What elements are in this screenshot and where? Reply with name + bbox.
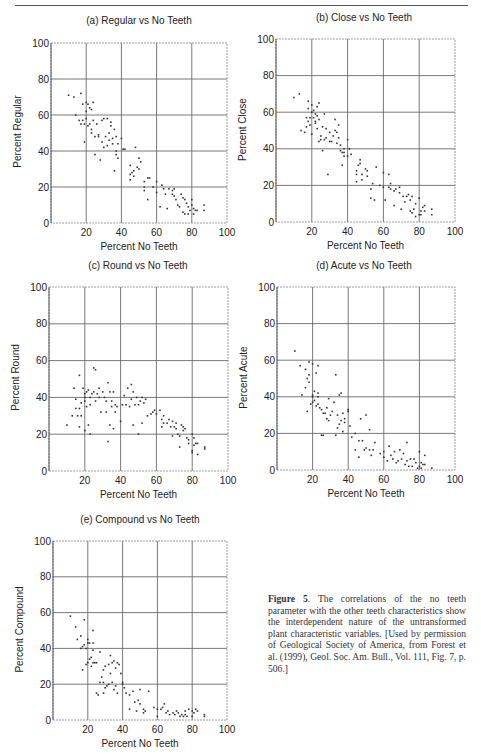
- data-point: [135, 147, 137, 149]
- data-point: [116, 406, 118, 408]
- data-point: [342, 412, 344, 414]
- data-point: [334, 119, 336, 121]
- data-point: [312, 396, 314, 398]
- data-point: [85, 111, 87, 113]
- x-tick-label: 40: [117, 724, 129, 735]
- data-point: [406, 460, 408, 462]
- data-point: [82, 387, 84, 389]
- data-point: [384, 199, 386, 201]
- x-tick-label: 20: [307, 474, 319, 485]
- data-point: [371, 455, 373, 457]
- x-tick-label: 80: [414, 474, 426, 485]
- x-tick-label: 60: [378, 474, 390, 485]
- data-point: [322, 126, 324, 128]
- data-point: [133, 175, 135, 177]
- data-point: [340, 144, 342, 146]
- data-point: [97, 393, 99, 395]
- data-point: [408, 194, 410, 196]
- data-point: [169, 714, 171, 716]
- data-point: [317, 403, 319, 405]
- data-point: [106, 685, 108, 687]
- data-point: [160, 708, 162, 710]
- data-point: [204, 446, 206, 448]
- data-point: [174, 714, 176, 716]
- data-point: [95, 400, 97, 402]
- data-point: [132, 424, 134, 426]
- data-point: [152, 411, 154, 413]
- data-point: [320, 139, 322, 141]
- data-point: [307, 100, 309, 102]
- data-point: [395, 462, 397, 464]
- data-point: [98, 136, 100, 138]
- data-point: [139, 703, 141, 705]
- data-point: [338, 137, 340, 139]
- data-point: [331, 411, 333, 413]
- data-point: [147, 415, 149, 417]
- data-point: [322, 412, 324, 414]
- data-point: [179, 435, 181, 437]
- data-point: [413, 458, 415, 460]
- data-point: [374, 199, 376, 201]
- x-tick-label: 80: [186, 227, 198, 238]
- data-point: [375, 166, 377, 168]
- data-point: [117, 157, 119, 159]
- data-point: [121, 138, 123, 140]
- data-point: [195, 210, 197, 212]
- x-tick-label: 20: [79, 475, 91, 486]
- data-point: [145, 398, 147, 400]
- data-point: [110, 655, 112, 657]
- data-point: [120, 673, 122, 675]
- data-point: [314, 400, 316, 402]
- data-point: [204, 716, 206, 718]
- data-point: [431, 467, 433, 469]
- data-point: [184, 710, 186, 712]
- data-point: [122, 148, 124, 150]
- data-point: [137, 700, 139, 702]
- data-point: [105, 411, 107, 413]
- data-point: [321, 409, 323, 411]
- data-point: [80, 402, 82, 404]
- data-point: [127, 387, 129, 389]
- x-axis-label: Percent No Teeth: [79, 489, 199, 500]
- data-point: [117, 662, 119, 664]
- data-point: [193, 213, 195, 215]
- data-point: [91, 129, 93, 131]
- data-point: [163, 188, 165, 190]
- data-point: [172, 190, 174, 192]
- data-point: [117, 692, 119, 694]
- y-tick-label: 40: [263, 143, 275, 154]
- data-point: [122, 404, 124, 406]
- y-tick-label: 60: [36, 355, 48, 366]
- data-point: [322, 434, 324, 436]
- data-point: [318, 141, 320, 143]
- data-point: [125, 404, 127, 406]
- data-point: [315, 121, 317, 123]
- data-point: [156, 413, 158, 415]
- data-point: [337, 427, 339, 429]
- data-point: [182, 426, 184, 428]
- data-point: [418, 214, 420, 216]
- chart-title: (b) Close vs No Teeth: [284, 12, 444, 23]
- data-point: [388, 186, 390, 188]
- data-point: [87, 103, 89, 105]
- data-point: [343, 152, 345, 154]
- data-point: [129, 174, 131, 176]
- data-point: [86, 406, 88, 408]
- y-tick-label: 20: [36, 429, 48, 440]
- data-point: [419, 466, 421, 468]
- data-point: [179, 716, 181, 718]
- caption-label: Figure 5: [268, 593, 308, 604]
- data-point: [107, 118, 109, 120]
- data-point: [104, 687, 106, 689]
- data-point: [79, 375, 81, 377]
- data-point: [84, 400, 86, 402]
- data-point: [143, 190, 145, 192]
- data-point: [315, 122, 317, 124]
- data-point: [143, 186, 145, 188]
- data-point: [113, 391, 115, 393]
- data-point: [316, 106, 318, 108]
- data-point: [195, 443, 197, 445]
- data-point: [156, 181, 158, 183]
- data-point: [181, 424, 183, 426]
- data-point: [152, 186, 154, 188]
